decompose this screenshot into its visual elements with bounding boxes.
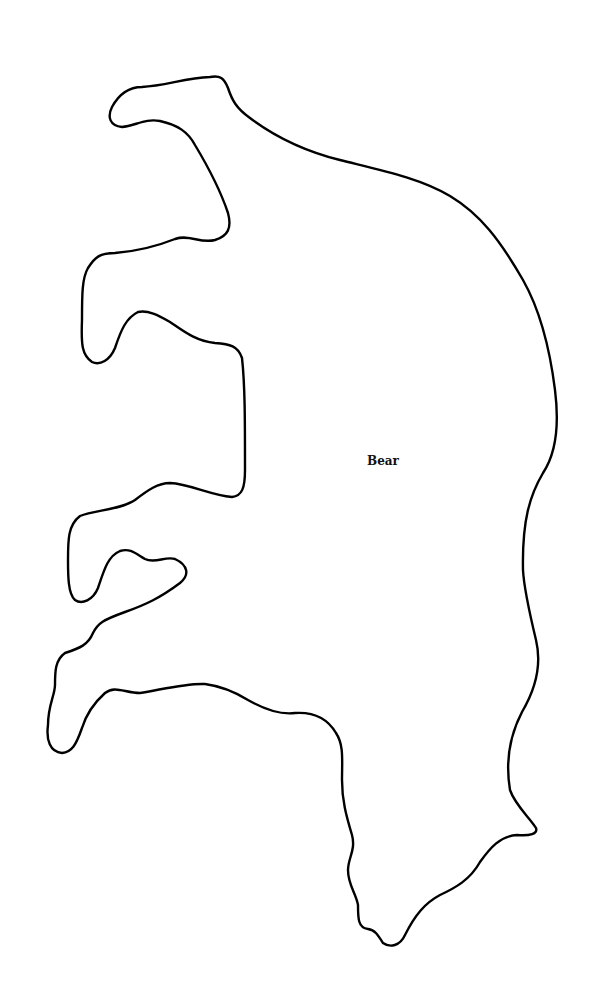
bear-outline-canvas — [0, 0, 590, 997]
bear-outline-shape — [48, 76, 557, 945]
shape-label: Bear — [353, 454, 413, 468]
